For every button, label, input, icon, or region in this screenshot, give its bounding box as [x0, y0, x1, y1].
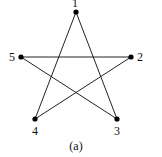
node-2	[128, 54, 133, 59]
nodes	[18, 9, 133, 121]
node-label-4: 4	[32, 124, 38, 138]
node-5	[18, 54, 23, 59]
edge-1-4	[35, 12, 76, 119]
node-label-2: 2	[137, 50, 143, 64]
edges	[21, 12, 131, 119]
edge-2-4	[35, 57, 131, 119]
node-label-5: 5	[9, 50, 15, 64]
edge-1-3	[76, 12, 117, 119]
node-label-3: 3	[114, 124, 120, 138]
node-4	[32, 116, 37, 121]
node-1	[73, 9, 78, 14]
node-3	[114, 116, 119, 121]
edge-5-3	[21, 57, 117, 119]
figure-caption: (a)	[69, 139, 82, 153]
node-label-1: 1	[72, 0, 78, 10]
pentagram-graph: 1 2 3 4 5 (a)	[0, 0, 162, 157]
node-labels: 1 2 3 4 5	[9, 0, 143, 138]
